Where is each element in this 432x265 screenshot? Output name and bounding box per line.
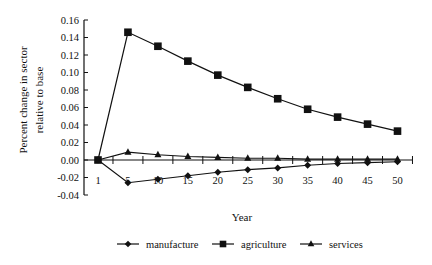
square-marker	[124, 28, 132, 36]
triangle-marker	[214, 153, 221, 160]
y-axis-label: Percent change in sectorrelative to base	[17, 46, 45, 154]
series-layer	[94, 28, 401, 186]
x-tick-label: 20	[213, 175, 224, 186]
triangle-marker	[308, 240, 315, 246]
diamond-marker	[125, 241, 132, 248]
triangle-marker	[364, 155, 371, 162]
line-chart: 0.160.140.120.100.080.060.040.020.00-0.0…	[0, 0, 432, 265]
legend-item-services: services	[300, 239, 363, 250]
triangle-marker	[304, 155, 311, 162]
x-tick-label: 35	[302, 175, 313, 186]
y-axis-label-line: relative to base	[33, 67, 45, 134]
y-tick-label: -0.04	[57, 190, 80, 201]
x-tick-label: 40	[332, 175, 343, 186]
diamond-marker	[244, 166, 251, 173]
triangle-marker	[184, 153, 191, 160]
triangle-marker	[244, 154, 251, 161]
x-tick-label: 45	[362, 175, 373, 186]
square-marker	[214, 71, 222, 79]
y-tick-label: 0.06	[61, 102, 79, 113]
legend-item-agriculture: agriculture	[212, 239, 287, 250]
triangle-marker	[124, 148, 131, 155]
x-tick-label: 30	[272, 175, 283, 186]
square-marker	[274, 95, 282, 103]
legend: manufactureagricultureservices	[117, 239, 363, 250]
triangle-marker	[394, 155, 401, 162]
legend-label: services	[329, 239, 363, 250]
x-tick-label: 25	[243, 175, 254, 186]
y-tick-label: 0.08	[61, 85, 79, 96]
y-axis: 0.160.140.120.100.080.060.040.020.00-0.0…	[57, 15, 88, 201]
diamond-marker	[304, 162, 311, 169]
diamond-marker	[274, 164, 281, 171]
legend-label: agriculture	[241, 239, 287, 250]
triangle-marker	[274, 154, 281, 161]
y-tick-label: 0.12	[61, 50, 79, 61]
square-marker	[184, 57, 192, 65]
y-tick-label: 0.14	[61, 32, 80, 43]
triangle-marker	[334, 155, 341, 162]
square-marker	[304, 105, 312, 113]
y-tick-label: 0.00	[61, 155, 79, 166]
square-marker	[244, 84, 252, 92]
y-tick-label: -0.02	[57, 172, 79, 183]
legend-label: manufacture	[146, 239, 199, 250]
square-marker	[220, 241, 227, 248]
x-tick-label: 1	[95, 175, 100, 186]
y-tick-label: 0.10	[61, 67, 79, 78]
square-marker	[334, 113, 342, 121]
square-marker	[154, 42, 162, 50]
x-axis-label: Year	[232, 211, 253, 223]
y-tick-label: 0.04	[61, 120, 80, 131]
legend-item-manufacture: manufacture	[117, 239, 199, 250]
y-axis-label-line: Percent change in sector	[17, 46, 29, 154]
y-tick-label: 0.02	[61, 137, 79, 148]
series-agriculture	[94, 28, 401, 163]
y-tick-label: 0.16	[61, 15, 79, 26]
square-marker	[364, 120, 372, 128]
square-marker	[394, 127, 402, 135]
series-line	[98, 32, 398, 160]
x-tick-label: 50	[392, 175, 403, 186]
